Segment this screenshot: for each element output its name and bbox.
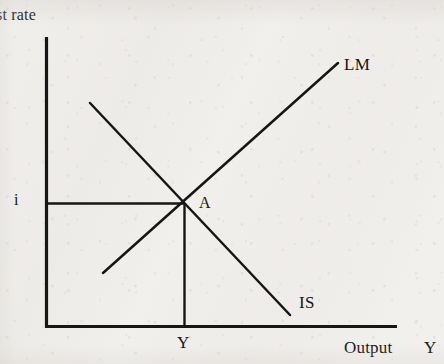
is-curve-line: [90, 103, 290, 315]
equilibrium-point-label: A: [199, 195, 211, 211]
equilibrium-rate-label: i: [14, 192, 18, 208]
equilibrium-output-label: Y: [177, 334, 189, 351]
is-curve-label: IS: [299, 294, 315, 311]
x-axis-title: Output: [344, 339, 392, 356]
is-lm-plot: [0, 0, 444, 364]
lm-curve-label: LM: [344, 56, 370, 73]
y-axis-title: st rate: [0, 7, 36, 23]
is-lm-diagram-figure: st rate i A LM IS Y Output Y: [0, 0, 444, 364]
x-axis-symbol: Y: [424, 339, 436, 356]
